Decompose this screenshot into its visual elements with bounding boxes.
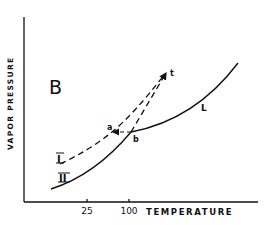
x-tick-label-100: 100 [120, 206, 137, 216]
curve-I [60, 75, 164, 164]
panel-label: B [49, 76, 62, 98]
curve-L [131, 63, 238, 132]
x-tick-label-25: 25 [81, 206, 92, 216]
point-label-t: t [170, 69, 174, 78]
x-axis-label: TEMPERATURE [146, 207, 233, 217]
vapor-pressure-diagram: 25 100 TEMPERATURE VAPOR PRESSURE B I II… [0, 0, 268, 225]
y-axis-label: VAPOR PRESSURE [6, 57, 15, 150]
point-label-b: b [133, 135, 139, 144]
curve-label-L: L [201, 103, 207, 113]
point-label-a: a [107, 123, 112, 132]
